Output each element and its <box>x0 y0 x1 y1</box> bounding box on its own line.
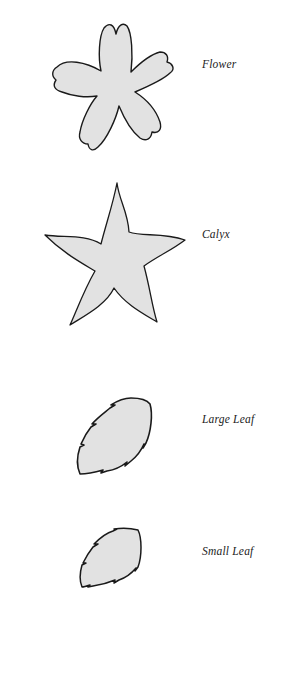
calyx-label: Calyx <box>202 228 230 240</box>
flower-label: Flower <box>202 58 236 70</box>
calyx-star-shape-icon <box>45 183 185 325</box>
serrated-leaf-shape-icon <box>80 528 141 587</box>
serrated-leaf-shape-icon <box>77 398 151 474</box>
templates-canvas <box>0 0 300 679</box>
flower-shape-icon <box>53 24 173 150</box>
small-leaf-label: Small Leaf <box>202 545 254 557</box>
large-leaf-label: Large Leaf <box>202 413 254 425</box>
